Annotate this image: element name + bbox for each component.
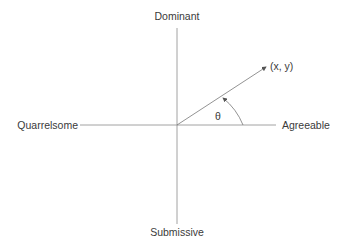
- axis-label-top: Dominant: [155, 10, 200, 22]
- axis-label-bottom: Submissive: [150, 226, 204, 238]
- circumplex-diagram: Dominant Submissive Quarrelsome Agreeabl…: [0, 0, 342, 249]
- axis-label-right: Agreeable: [282, 119, 330, 131]
- angle-arc: [223, 98, 243, 125]
- angle-label: θ: [215, 110, 221, 122]
- vector-label: (x, y): [270, 60, 293, 72]
- vector-arrow: [177, 67, 266, 125]
- axis-label-left: Quarrelsome: [17, 119, 78, 131]
